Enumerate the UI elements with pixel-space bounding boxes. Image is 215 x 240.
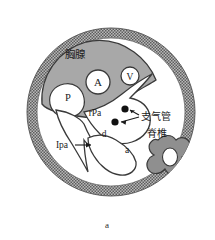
- label-vertebra: 脊椎: [147, 127, 167, 139]
- label-descending-aorta: d: [102, 129, 107, 139]
- figure-caption: a: [105, 220, 109, 230]
- anatomical-figure: 胸腺 A V P rPa Ipa d a 支气管 脊椎 a: [0, 0, 215, 240]
- bronchus-dot-1-icon: [121, 105, 128, 112]
- label-pulmonary-trunk: P: [65, 92, 71, 103]
- vertebral-canal: [163, 148, 178, 166]
- label-thymus: 胸腺: [65, 48, 86, 60]
- label-bronchus: 支气管: [141, 110, 171, 122]
- label-left-pulmonary-artery: Ipa: [56, 140, 69, 150]
- label-right-pulmonary-artery: rPa: [89, 108, 102, 118]
- label-artery: A: [94, 76, 102, 88]
- cross-section-svg: 胸腺 A V P rPa Ipa d a 支气管 脊椎 a: [0, 0, 215, 240]
- bronchus-dot-2-icon: [111, 118, 118, 125]
- label-vein: V: [127, 72, 134, 82]
